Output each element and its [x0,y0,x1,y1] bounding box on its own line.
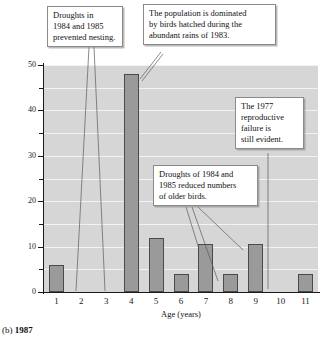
y-tick-minor [39,269,43,270]
y-tick-major [38,247,43,248]
annotation-droughts-prevented-nesting: Droughts in 1984 and 1985 prevented nest… [47,6,123,47]
y-tick-label: 50 [18,61,36,69]
annotation-line: Droughts in [53,10,118,21]
bar [248,244,263,292]
annotation-droughts-reduced-older-birds: Droughts of 1984 and 1985 reduced number… [153,165,258,206]
x-tick-label: 7 [196,296,216,306]
annotation-line: failure is [241,123,299,134]
annotation-population-dominated-1983: The population is dominated by birds hat… [143,4,276,45]
bar [298,274,313,292]
annotation-line: still evident. [241,134,299,145]
annotation-reproductive-failure-1977: The 1977 reproductive failure is still e… [235,97,304,149]
y-tick-major [38,156,43,157]
caption-year: 1987 [15,325,33,335]
gridline [44,224,318,225]
gridline [44,247,318,248]
annotation-line: by birds hatched during the [149,19,271,30]
y-tick-major [38,65,43,66]
bar [124,74,139,292]
y-tick-minor [39,224,43,225]
bar [198,244,213,292]
annotation-line: reproductive [241,112,299,123]
y-tick-minor [39,133,43,134]
annotation-line: abundant rains of 1983. [149,30,271,41]
x-tick-label: 1 [46,296,66,306]
x-tick-label: 9 [246,296,266,306]
x-tick-label: 8 [221,296,241,306]
annotation-line: The population is dominated [149,8,271,19]
y-tick-major [38,201,43,202]
annotation-line: 1984 and 1985 [53,21,118,32]
x-axis-title: Age (years) [44,309,318,319]
bar [223,274,238,292]
gridline [44,269,318,270]
x-tick-label: 3 [96,296,116,306]
x-tick-label: 4 [121,296,141,306]
annotation-line: prevented nesting. [53,32,118,43]
annotation-line: The 1977 [241,101,299,112]
figure-1987-finch-age-distribution: 01020304050 Percentage of finches 123456… [0,0,326,343]
caption-prefix: (b) [2,325,13,335]
bar [149,238,164,292]
y-tick-label: 30 [18,152,36,160]
gridline [44,156,318,157]
gridline [44,65,318,66]
annotation-line: 1985 reduced numbers [159,180,253,191]
annotation-line: of older birds. [159,191,253,202]
y-tick-label: 40 [18,106,36,114]
figure-caption: (b) 1987 [2,325,33,335]
x-tick-label: 10 [271,296,291,306]
x-axis-line [42,292,320,293]
y-tick-minor [39,179,43,180]
y-tick-label: 20 [18,197,36,205]
bar [49,265,64,292]
y-tick-major [38,292,43,293]
y-tick-label: 10 [18,243,36,251]
x-tick-label: 2 [71,296,91,306]
y-tick-major [38,110,43,111]
annotation-line: Droughts of 1984 and [159,169,253,180]
x-tick-label: 5 [146,296,166,306]
bar [174,274,189,292]
gridline [44,88,318,89]
y-axis-line [43,63,44,294]
y-tick-minor [39,88,43,89]
x-tick-label: 11 [296,296,316,306]
x-tick-label: 6 [171,296,191,306]
y-tick-label: 0 [18,288,36,296]
